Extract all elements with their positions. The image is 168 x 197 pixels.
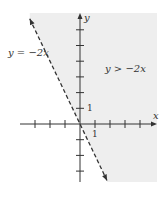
- boundary-equation-label: y = −2x: [7, 47, 49, 58]
- x-axis-label: x: [153, 110, 159, 121]
- y-tick-label-1: 1: [87, 103, 93, 113]
- y-axis-label: y: [83, 12, 90, 23]
- x-tick-label-1: 1: [92, 129, 98, 139]
- inequality-graph: x y 1 1 y = −2x y > −2x: [0, 0, 168, 197]
- shaded-region: [30, 13, 157, 182]
- region-inequality-label: y > −2x: [104, 63, 146, 74]
